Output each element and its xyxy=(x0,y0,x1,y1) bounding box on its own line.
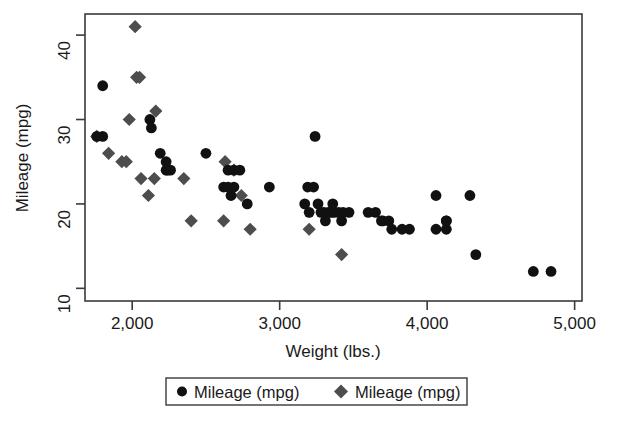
data-point-circle xyxy=(146,123,157,134)
scatter-plot-figure: 10203040 2,0003,0004,0005,000 Weight (lb… xyxy=(0,0,619,431)
data-point-circle xyxy=(310,131,321,142)
x-tick-label: 4,000 xyxy=(406,314,449,333)
data-point-circle xyxy=(97,80,108,91)
data-point-circle xyxy=(470,249,481,260)
data-point-circle xyxy=(431,224,442,235)
data-point-circle xyxy=(201,148,212,159)
legend-entry-label-1: Mileage (mpg) xyxy=(194,383,299,401)
data-point-circle xyxy=(344,207,355,218)
data-point-circle xyxy=(264,182,275,193)
data-point-circle xyxy=(304,207,315,218)
data-point-circle xyxy=(546,266,557,277)
legend-entry-label-2: Mileage (mpg) xyxy=(355,383,460,401)
data-point-circle xyxy=(242,199,253,210)
x-axis-title: Weight (lbs.) xyxy=(285,342,380,361)
chart-canvas: 10203040 2,0003,0004,0005,000 Weight (lb… xyxy=(0,0,619,431)
data-point-circle xyxy=(528,266,539,277)
circle-marker-icon xyxy=(177,387,187,397)
y-tick-label: 40 xyxy=(55,41,74,60)
x-tick-label: 5,000 xyxy=(553,314,596,333)
data-point-circle xyxy=(229,182,240,193)
data-point-circle xyxy=(165,165,176,176)
data-point-circle xyxy=(404,224,415,235)
chart-legend: Mileage (mpg) Mileage (mpg) xyxy=(166,378,467,405)
data-point-circle xyxy=(234,165,245,176)
y-tick-label: 20 xyxy=(55,210,74,229)
data-point-circle xyxy=(441,215,452,226)
data-point-circle xyxy=(97,131,108,142)
data-point-circle xyxy=(308,182,319,193)
data-point-circle xyxy=(465,190,476,201)
y-tick-label: 30 xyxy=(55,126,74,145)
y-tick-label: 10 xyxy=(55,294,74,313)
x-tick-label: 3,000 xyxy=(258,314,301,333)
x-tick-label: 2,000 xyxy=(111,314,154,333)
data-point-circle xyxy=(431,190,442,201)
data-point-circle xyxy=(386,224,397,235)
y-axis-title: Mileage (mpg) xyxy=(13,104,32,213)
